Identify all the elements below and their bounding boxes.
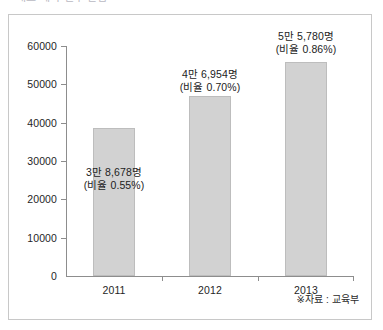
y-axis-tick xyxy=(61,123,66,124)
bar-annotation-2012-ratio: (비율 0.70%) xyxy=(150,81,270,94)
bar-annotation-2013: 5만 5,780명 (비율 0.86%) xyxy=(246,30,366,56)
source-note: ※자료 : 교육부 xyxy=(296,294,359,306)
y-axis-label-50000: 50000 xyxy=(27,79,57,90)
x-axis-line xyxy=(66,276,354,277)
clipped-top-caption: 그래프 제목 일부 잘림 xyxy=(6,0,206,3)
bar-annotation-2011: 3만 8,678명 (비율 0.55%) xyxy=(54,166,174,192)
x-axis-separator-tick xyxy=(258,276,259,281)
y-axis-label-20000: 20000 xyxy=(27,194,57,205)
y-axis-label-30000: 30000 xyxy=(27,156,57,167)
bar-annotation-2011-ratio: (비율 0.55%) xyxy=(54,179,174,192)
x-axis-label-2011: 2011 xyxy=(74,284,154,296)
bar-annotation-2012: 4만 6,954명 (비율 0.70%) xyxy=(150,68,270,94)
y-axis-tick xyxy=(61,84,66,85)
y-axis-line xyxy=(66,46,67,277)
y-axis-tick xyxy=(61,161,66,162)
y-axis-tick xyxy=(61,46,66,47)
y-axis-label-10000: 10000 xyxy=(27,232,57,243)
x-axis-separator-tick xyxy=(353,276,354,281)
y-axis-label-60000: 60000 xyxy=(27,41,57,52)
chart-figure-frame: 60000 50000 40000 30000 20000 10000 0 xyxy=(8,14,372,320)
y-axis-label-0: 0 xyxy=(51,271,57,282)
y-axis-tick xyxy=(61,238,66,239)
x-axis-label-2012: 2012 xyxy=(170,284,250,296)
bar-2013[interactable] xyxy=(285,62,327,276)
plot-area: 60000 50000 40000 30000 20000 10000 0 xyxy=(66,46,354,276)
y-axis-tick xyxy=(61,199,66,200)
x-axis-separator-tick xyxy=(162,276,163,281)
bar-annotation-2011-value: 3만 8,678명 xyxy=(86,166,142,178)
bar-annotation-2013-value: 5만 5,780명 xyxy=(278,30,334,42)
bar-2011[interactable] xyxy=(93,128,135,276)
bar-annotation-2013-ratio: (비율 0.86%) xyxy=(246,43,366,56)
bar-2012[interactable] xyxy=(189,96,231,276)
bar-annotation-2012-value: 4만 6,954명 xyxy=(182,68,238,80)
y-axis-label-40000: 40000 xyxy=(27,117,57,128)
